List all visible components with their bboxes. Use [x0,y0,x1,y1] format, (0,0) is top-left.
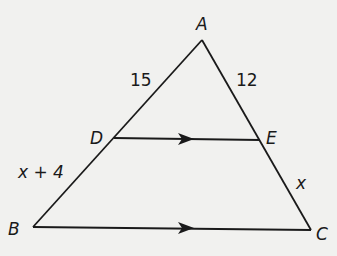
vertex-label-a: A [195,14,208,34]
vertex-label-e: E [266,128,277,148]
vertex-label-c: C [316,224,328,244]
vertex-label-b: B [8,219,20,239]
segment-label-ec: x [295,173,307,193]
side-bc [33,227,311,230]
segment-label-ae: 12 [236,70,258,90]
triangle-diagram: A 15 12 D E x + 4 x B C [0,0,337,256]
segment-label-ad: 15 [130,70,152,90]
side-ac [202,40,311,230]
segment-label-db: x + 4 [17,162,64,182]
side-ab [33,40,202,227]
vertex-label-d: D [90,128,103,148]
